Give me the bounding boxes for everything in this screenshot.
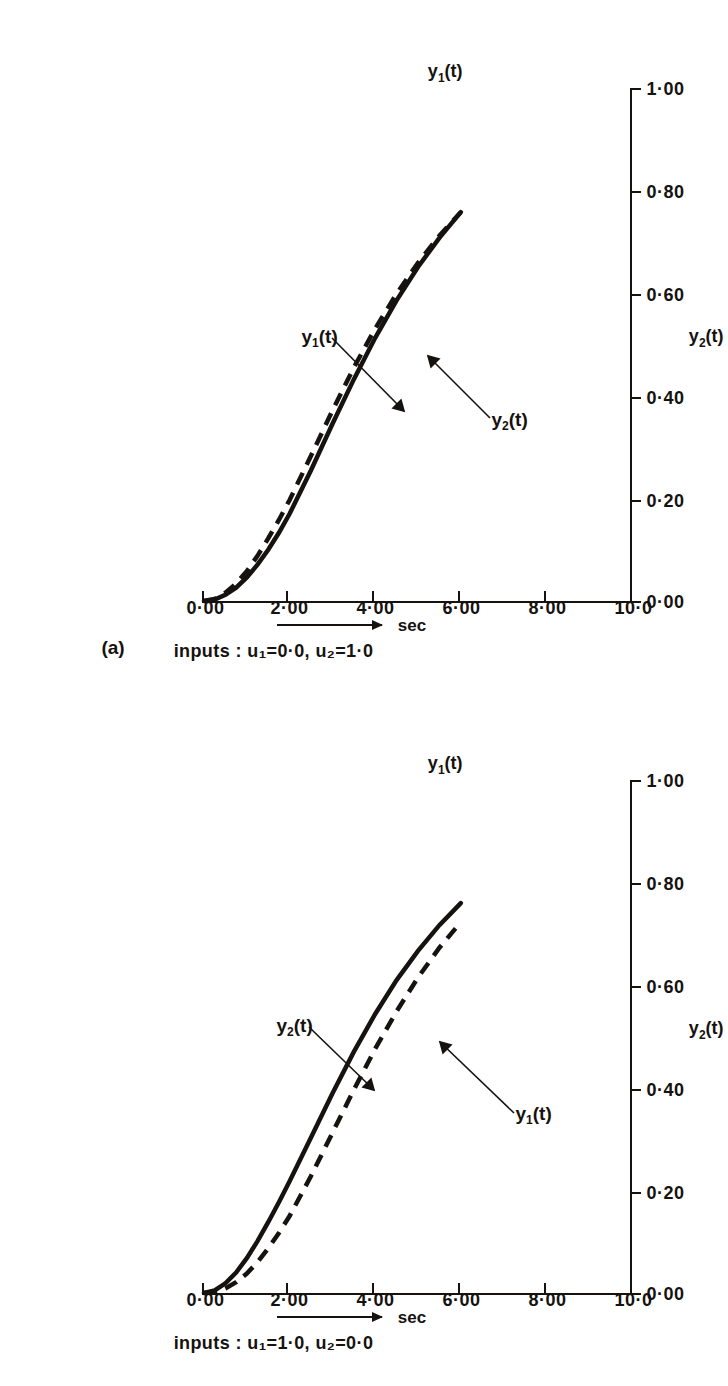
- curve-label-y1-b: y1(t): [489, 1103, 579, 1128]
- curve-label-y2-b: y2(t): [250, 1015, 340, 1040]
- value-tick: [631, 294, 641, 296]
- axis-title-suffix: (t): [706, 1018, 724, 1038]
- axis-title-suffix: (t): [445, 753, 463, 773]
- value-tick-label: 0·60: [643, 285, 689, 306]
- value-tick-label: 0·20: [643, 1183, 689, 1204]
- curve-label-name: y: [491, 409, 502, 430]
- value-tick-label: 0·80: [643, 182, 689, 203]
- value-tick: [631, 1192, 641, 1194]
- axis-title-suffix: (t): [706, 326, 724, 346]
- axis-title-y1-b: y1(t): [400, 753, 490, 777]
- axis-title-y1-a: y1(t): [400, 61, 490, 85]
- axis-title-y2-b: y2(t): [661, 1018, 728, 1042]
- curve-label-suffix: (t): [509, 409, 528, 430]
- curve-y1-solid-a: [204, 212, 461, 601]
- curve-label-name: y: [515, 1103, 526, 1124]
- value-tick: [631, 780, 641, 782]
- axis-title-text: y: [428, 753, 438, 773]
- axis-title-y2-a: y2(t): [661, 326, 728, 350]
- curve-label-name: y: [276, 1015, 287, 1036]
- value-tick-label: 0·20: [643, 491, 689, 512]
- value-tick: [631, 986, 641, 988]
- plot-area-b: 1·00 0·80 0·60 0·40 0·20 0·00 y2(t) 10·0…: [202, 780, 632, 1295]
- curve-y2-dashed-b: [204, 922, 461, 1293]
- curve-y1-solid-b: [204, 903, 461, 1293]
- value-tick: [631, 883, 641, 885]
- value-tick-label: 0·40: [643, 388, 689, 409]
- inputs-caption-a: inputs : u₁=0·0, u₂=1·0: [129, 641, 419, 662]
- value-tick: [631, 500, 641, 502]
- curve-y2-dashed-a: [204, 212, 461, 601]
- value-tick-label: 1·00: [643, 771, 689, 792]
- value-tick-label: 0·40: [643, 1080, 689, 1101]
- curves-svg-a: [202, 88, 632, 603]
- time-direction-arrow-a: [277, 624, 382, 626]
- curve-label-y1-a: y1(t): [275, 326, 365, 351]
- axis-title-text: y: [428, 61, 438, 81]
- time-direction-arrow-b: [277, 1316, 382, 1318]
- value-tick-label: 1·00: [643, 79, 689, 100]
- axis-title-text: y: [689, 1018, 699, 1038]
- axis-title-suffix: (t): [445, 61, 463, 81]
- value-tick-label: 0·60: [643, 977, 689, 998]
- value-tick: [631, 397, 641, 399]
- plot-area-a: 1·00 0·80 0·60 0·40 0·20 0·00 y2(t) 10·0…: [202, 88, 632, 603]
- curve-label-suffix: (t): [294, 1015, 313, 1036]
- curve-label-suffix: (t): [533, 1103, 552, 1124]
- panel-tag-a: (a): [93, 637, 133, 659]
- value-tick: [631, 1089, 641, 1091]
- callout-leaders-b: [309, 1027, 514, 1113]
- value-tick: [631, 88, 641, 90]
- time-axis-label-b: sec: [389, 1308, 435, 1328]
- chart-panel-b: 1·00 0·80 0·60 0·40 0·20 0·00 y2(t) 10·0…: [32, 710, 672, 1370]
- curve-label-name: y: [301, 326, 312, 347]
- value-tick: [631, 191, 641, 193]
- curve-label-suffix: (t): [319, 326, 338, 347]
- time-axis-label-a: sec: [389, 616, 435, 636]
- axis-title-text: y: [689, 326, 699, 346]
- value-tick-label: 0·80: [643, 874, 689, 895]
- inputs-caption-b: inputs : u₁=1·0, u₂=0·0: [129, 1333, 419, 1354]
- chart-panel-a: 1·00 0·80 0·60 0·40 0·20 0·00 y2(t) 10·0…: [32, 18, 672, 678]
- curve-label-y2-a: y2(t): [465, 409, 555, 434]
